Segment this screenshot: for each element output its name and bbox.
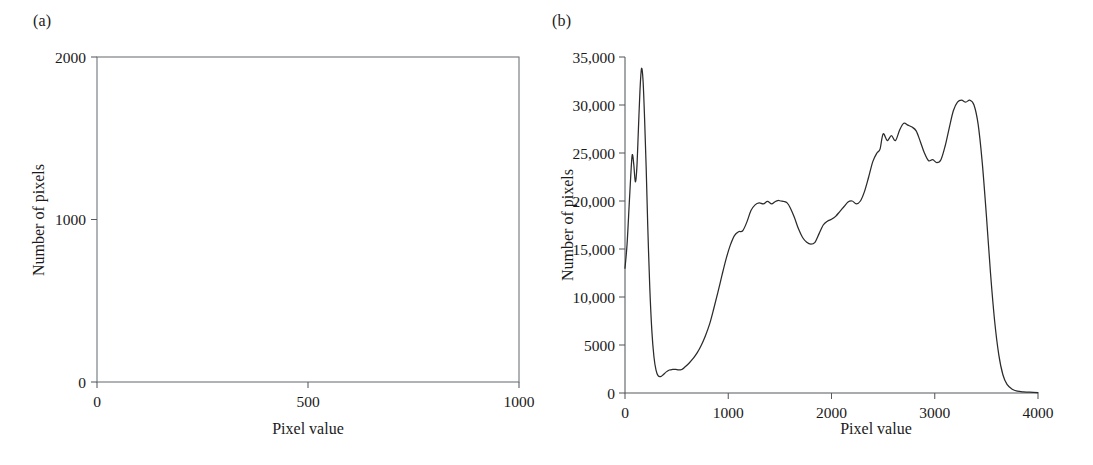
panel-a-tick-labels: 01000200005001000 xyxy=(55,49,535,411)
figure-two-panel-histograms: (a) 01000200005001000 Pixel value Number… xyxy=(0,0,1093,465)
panel-a-frame xyxy=(97,57,519,382)
axis-lines xyxy=(625,57,1038,393)
panel-b-curve xyxy=(625,68,1038,392)
y-tick-label: 10,000 xyxy=(572,289,615,306)
panel-b-frame xyxy=(625,57,1038,393)
y-tick-label: 0 xyxy=(78,374,86,391)
panel-b: (b) 0500010,00015,00020,00025,00030,0003… xyxy=(546,0,1093,465)
y-tick-label: 5000 xyxy=(584,337,615,354)
x-tick-label: 2000 xyxy=(816,404,847,421)
panel-a-ylabel: Number of pixels xyxy=(30,164,48,276)
x-tick-label: 0 xyxy=(621,404,629,421)
x-tick-label: 1000 xyxy=(504,393,535,410)
panel-b-plot: 0500010,00015,00020,00025,00030,00035,00… xyxy=(546,0,1093,465)
y-tick-label: 15,000 xyxy=(572,241,615,258)
y-tick-label: 2000 xyxy=(55,49,86,66)
plot-frame-box xyxy=(97,57,519,382)
x-tick-label: 500 xyxy=(296,393,320,410)
y-tick-label: 0 xyxy=(607,385,615,402)
y-tick-label: 1000 xyxy=(55,211,86,228)
panel-a: (a) 01000200005001000 Pixel value Number… xyxy=(0,0,546,465)
panel-b-ylabel: Number of pixels xyxy=(559,169,577,281)
x-tick-label: 4000 xyxy=(1023,404,1054,421)
x-tick-label: 1000 xyxy=(713,404,744,421)
panel-b-xlabel: Pixel value xyxy=(840,420,912,437)
y-tick-label: 30,000 xyxy=(572,97,615,114)
panel-a-ticks xyxy=(91,57,519,388)
panel-a-xlabel: Pixel value xyxy=(272,420,344,437)
x-tick-label: 3000 xyxy=(919,404,950,421)
y-tick-label: 20,000 xyxy=(572,193,615,210)
panel-a-plot: 01000200005001000 Pixel value Number of … xyxy=(0,0,546,465)
x-tick-label: 0 xyxy=(93,393,101,410)
y-tick-label: 35,000 xyxy=(572,49,615,66)
histogram-curve xyxy=(625,68,1038,392)
y-tick-label: 25,000 xyxy=(572,145,615,162)
